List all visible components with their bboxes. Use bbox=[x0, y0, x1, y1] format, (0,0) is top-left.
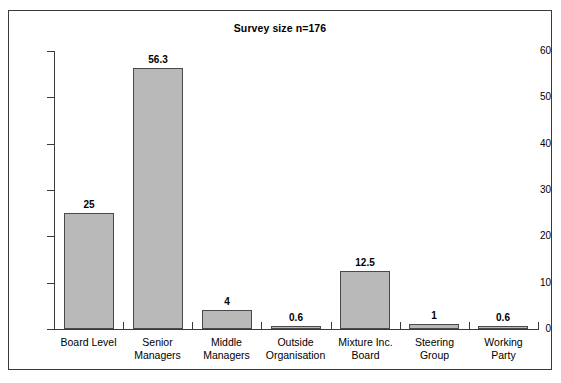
x-axis-line bbox=[54, 329, 538, 330]
chart-title: Survey size n=176 bbox=[9, 22, 551, 34]
bar[interactable] bbox=[133, 68, 183, 329]
y-axis-tick bbox=[47, 329, 54, 330]
bar-value-label: 56.3 bbox=[133, 54, 183, 65]
chart-frame: Survey size n=176 0102030405060 25Board … bbox=[8, 10, 552, 370]
bar[interactable] bbox=[64, 213, 114, 329]
x-axis-category-label: Outside Organisation bbox=[255, 336, 336, 361]
bar[interactable] bbox=[478, 326, 528, 329]
bar[interactable] bbox=[202, 310, 252, 329]
y-axis-tick bbox=[47, 283, 54, 284]
bar-value-label: 0.6 bbox=[271, 312, 321, 323]
bar-value-label: 1 bbox=[409, 310, 459, 321]
bar[interactable] bbox=[271, 326, 321, 329]
y-axis-tick bbox=[47, 51, 54, 52]
bar-value-label: 0.6 bbox=[478, 312, 528, 323]
bar[interactable] bbox=[409, 324, 459, 329]
y-axis-tick bbox=[47, 144, 54, 145]
bar-value-label: 12.5 bbox=[340, 257, 390, 268]
x-axis-tick bbox=[538, 322, 539, 330]
plot-area bbox=[54, 51, 538, 329]
bar[interactable] bbox=[340, 271, 390, 329]
bar-value-label: 4 bbox=[202, 296, 252, 307]
x-axis-category-label: Working Party bbox=[463, 336, 544, 361]
y-axis-tick bbox=[47, 190, 54, 191]
y-axis-tick bbox=[47, 236, 54, 237]
bar-value-label: 25 bbox=[64, 199, 114, 210]
y-axis-tick bbox=[47, 97, 54, 98]
